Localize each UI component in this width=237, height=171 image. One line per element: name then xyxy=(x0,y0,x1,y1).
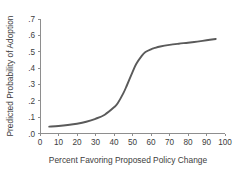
y-tick-label: .5 xyxy=(28,48,35,57)
x-tick-label: 0 xyxy=(38,138,43,147)
data-series-group xyxy=(49,39,216,127)
x-tick-label: 40 xyxy=(109,138,119,147)
x-tick-label: 90 xyxy=(202,138,212,147)
x-tick-label: 20 xyxy=(72,138,82,147)
x-tick-label: 70 xyxy=(165,138,175,147)
y-axis: .0.1.2.3.4.5.6.7 xyxy=(28,15,40,139)
y-tick-label: .2 xyxy=(28,97,35,106)
x-tick-label: 10 xyxy=(54,138,64,147)
y-tick-label: .4 xyxy=(28,64,35,73)
y-tick-label: .7 xyxy=(28,15,35,24)
x-axis: 0102030405060708090100 xyxy=(38,134,233,148)
x-tick-label: 100 xyxy=(218,138,232,147)
y-axis-title: Predicted Probability of Adoption xyxy=(5,15,15,136)
y-tick-label: .0 xyxy=(28,130,35,139)
x-axis-title: Percent Favoring Proposed Policy Change xyxy=(49,155,208,165)
x-tick-label: 50 xyxy=(128,138,138,147)
y-tick-label: .3 xyxy=(28,80,35,89)
y-tick-label: .6 xyxy=(28,31,35,40)
line-chart-plot: .0.1.2.3.4.5.6.7 0102030405060708090100 … xyxy=(0,0,237,171)
data-line-predicted-probability xyxy=(49,39,216,127)
x-tick-label: 30 xyxy=(91,138,101,147)
x-tick-label: 80 xyxy=(183,138,193,147)
chart-container: .0.1.2.3.4.5.6.7 0102030405060708090100 … xyxy=(0,0,237,171)
x-tick-label: 60 xyxy=(146,138,156,147)
y-tick-label: .1 xyxy=(28,113,35,122)
